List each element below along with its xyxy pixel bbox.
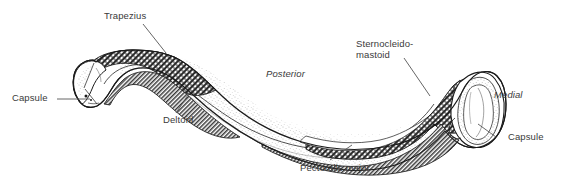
label-deltoid: Deltoid: [163, 114, 193, 126]
label-medial: Medial: [494, 89, 523, 101]
label-trapezius: Trapezius: [104, 10, 146, 22]
leader-trapezius: [143, 24, 166, 53]
label-pectoralis-major: Pectoralis major: [300, 162, 370, 174]
anatomical-figure: Trapezius Capsule Deltoid Posterior Ster…: [0, 0, 565, 185]
label-posterior: Posterior: [266, 68, 305, 80]
facet-foramen: [85, 95, 88, 98]
leader-sternocleidomastoid: [404, 58, 430, 96]
facet-foramen-2: [90, 99, 92, 101]
label-capsule-right: Capsule: [508, 131, 544, 143]
label-sternocleidomastoid-line1: Sternocleido-: [356, 38, 413, 49]
sternal-articular-surface: [464, 85, 494, 140]
label-capsule-left: Capsule: [12, 92, 48, 104]
clavicle-illustration: [0, 0, 565, 185]
label-sternocleidomastoid: Sternocleido-mastoid: [356, 38, 413, 60]
label-sternocleidomastoid-line2: mastoid: [356, 49, 390, 60]
